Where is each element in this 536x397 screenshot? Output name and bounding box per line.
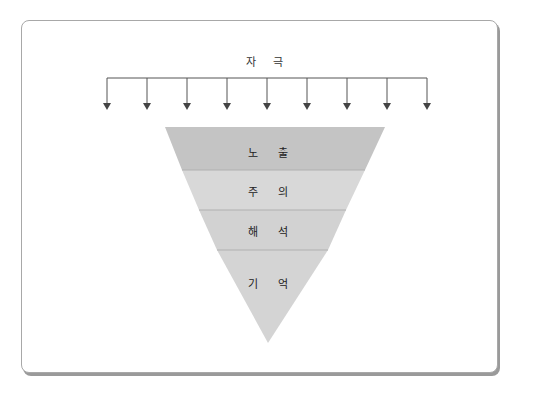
layer-label-attention: 주 의 [222,183,322,199]
arrow-6 [303,78,311,110]
arrow-5 [263,78,271,110]
arrow-9 [423,78,431,110]
arrow-8 [383,78,391,110]
funnel-layer-memory [217,250,328,343]
layer-label-exposure: 노 출 [222,144,322,160]
arrow-1 [103,78,111,110]
layer-label-interpretation: 해 석 [222,223,322,239]
layer-label-memory: 기 억 [222,275,322,291]
arrow-2 [143,78,151,110]
stimulus-arrows [103,78,431,110]
arrow-7 [343,78,351,110]
arrow-4 [223,78,231,110]
arrow-3 [183,78,191,110]
